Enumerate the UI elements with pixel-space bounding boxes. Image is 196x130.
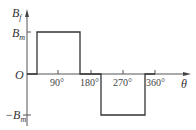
x-axis-label: θ: [181, 77, 187, 91]
tick-label-360: 360°: [146, 77, 165, 88]
tick-label-90: 90°: [50, 77, 64, 88]
neg-bm-label: −Bm: [5, 108, 26, 124]
tick-label-270: 270°: [113, 77, 132, 88]
tick-label-180: 180°: [80, 77, 99, 88]
y-axis-arrow-icon: [25, 9, 29, 17]
y-axis-label: Bf: [12, 6, 23, 22]
bm-label: Bm: [12, 26, 25, 42]
x-axis-arrow-icon: [183, 72, 191, 76]
origin-label: O: [15, 68, 24, 82]
flux-waveform-diagram: Bf Bm −Bm O 90° 180° 270° 360° θ: [0, 0, 196, 130]
